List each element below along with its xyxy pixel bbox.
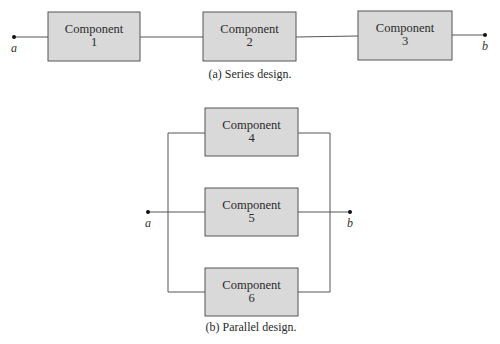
node-b-label: b <box>347 216 353 230</box>
component-5-label: Component <box>222 198 281 212</box>
reliability-diagram: a b Component 1 Component 2 Component 3 … <box>0 0 500 344</box>
node-a-dot <box>12 35 16 39</box>
series-caption: (a) Series design. <box>209 67 292 81</box>
component-6-label: Component <box>222 278 281 292</box>
component-2: Component 2 <box>203 12 296 61</box>
node-a-label: a <box>145 216 151 230</box>
series-design: a b Component 1 Component 2 Component 3 … <box>11 11 488 81</box>
node-b-dot <box>483 33 487 37</box>
component-4-number: 4 <box>248 131 255 145</box>
component-2-number: 2 <box>246 35 252 49</box>
component-3-number: 3 <box>402 34 408 48</box>
component-3-label: Component <box>376 21 435 35</box>
component-4-label: Component <box>222 118 281 132</box>
wire-component-2-to-3 <box>296 36 358 37</box>
component-1-label: Component <box>65 22 124 36</box>
parallel-caption: (b) Parallel design. <box>206 320 297 334</box>
component-2-label: Component <box>220 22 279 36</box>
component-6: Component 6 <box>205 268 298 316</box>
parallel-design: a b Component 4 Component 5 Component 6 … <box>145 108 353 334</box>
component-3: Component 3 <box>358 11 452 60</box>
component-5-number: 5 <box>248 211 254 225</box>
node-b-dot <box>348 210 352 214</box>
component-6-number: 6 <box>248 291 254 305</box>
node-b-label: b <box>482 39 488 53</box>
component-1: Component 1 <box>48 12 140 61</box>
component-5: Component 5 <box>205 188 298 236</box>
node-a-dot <box>146 210 150 214</box>
node-a-label: a <box>11 41 17 55</box>
component-4: Component 4 <box>205 108 298 156</box>
component-1-number: 1 <box>91 35 97 49</box>
